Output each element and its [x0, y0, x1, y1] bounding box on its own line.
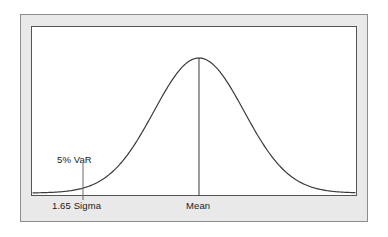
figure-container: 5% VaR 1.65 Sigma Mean	[0, 0, 388, 237]
bell-curve-path	[33, 58, 355, 193]
var-label: 5% VaR	[57, 154, 92, 165]
sigma-label: 1.65 Sigma	[52, 200, 101, 211]
mean-label: Mean	[186, 200, 210, 211]
